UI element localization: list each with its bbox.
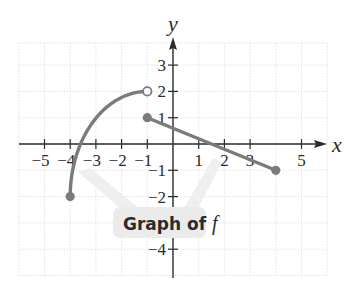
x-tick-label: 1 (194, 151, 203, 170)
function-graph-figure: −5−4−3−2−11235321−1−2−4 y x Graph of f (0, 0, 349, 290)
closed-endpoint-line-start (143, 113, 152, 122)
callout-text-f: f (212, 212, 220, 235)
x-tick-label: −3 (83, 151, 101, 170)
closed-endpoint-curve-start (66, 192, 75, 201)
closed-endpoint-line-end (271, 166, 280, 175)
callout-text-main: Graph of (123, 214, 212, 234)
x-tick-label: −5 (31, 151, 49, 170)
y-tick-label: −4 (148, 240, 167, 259)
x-axis-label: x (331, 132, 342, 157)
callout-text: Graph of f (123, 212, 220, 235)
x-tick-label: 5 (297, 151, 306, 170)
x-tick-label: 2 (220, 151, 229, 170)
x-tick-label: −2 (109, 151, 127, 170)
y-tick-label: −1 (148, 161, 166, 180)
callout-pointer-left (78, 168, 140, 212)
y-tick-label: 2 (158, 82, 167, 101)
y-tick-label: 3 (158, 56, 167, 75)
y-axis-label: y (166, 11, 178, 36)
y-tick-label: −2 (148, 188, 166, 207)
open-endpoint-curve-end (143, 87, 151, 95)
graph-canvas: −5−4−3−2−11235321−1−2−4 y x Graph of f (0, 0, 349, 290)
